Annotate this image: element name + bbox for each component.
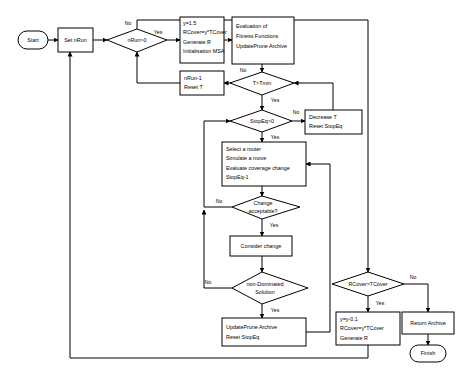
- node-t-gt-tmin[interactable]: T>Tmin: [230, 72, 294, 95]
- edge-label-change-yes: Yes: [270, 222, 279, 228]
- eval-box-line-2: Fitness Functions: [236, 33, 279, 39]
- non-dominated-shape: [232, 272, 308, 304]
- decrease-t-line-2: Reset StopEq: [309, 123, 342, 129]
- node-decrease-t[interactable]: Decrease T Reset StopEq: [305, 110, 362, 134]
- node-rcover-gt-tcover[interactable]: RCover>TCover: [332, 272, 404, 296]
- select-router-line-2: Simulate a move: [226, 155, 266, 161]
- init-box-line-1: y=1.5: [183, 20, 196, 26]
- edge-decrease-t-to-tmin: [294, 83, 333, 110]
- select-router-line-4: StopEq-1: [226, 174, 248, 180]
- node-consider-change[interactable]: Consider change: [230, 236, 292, 256]
- edge-label-nrun-yes: Yes: [154, 29, 163, 35]
- t-gt-tmin-label: T>Tmin: [253, 80, 271, 86]
- node-decrease-y[interactable]: y=y-0.1 RCover=y*TCover Generate R: [336, 312, 400, 345]
- init-box-line-4: Initialisation MSA: [183, 48, 225, 54]
- edge-label-stopeq-no: No: [293, 109, 300, 115]
- edge-decrease-y-to-set-nrun: [70, 52, 368, 358]
- edge-label-rcover-yes: Yes: [376, 300, 385, 306]
- decrease-y-line-1: y=y-0.1: [340, 316, 358, 322]
- decrease-y-line-2: RCover=y*TCover: [340, 325, 384, 331]
- rcover-gt-tcover-label: RCover>TCover: [348, 281, 387, 287]
- consider-change-label: Consider change: [241, 243, 282, 249]
- decrease-y-line-3: Generate R: [340, 335, 368, 341]
- change-acceptable-line-2: acceptable?: [248, 208, 277, 214]
- edge-nrun-dec-to-nrun-gt-0: [137, 52, 180, 83]
- node-nrun-dec[interactable]: nRun-1 Reset T: [180, 71, 224, 95]
- edge-nondominated-no-to-rail: [204, 210, 232, 288]
- node-init-box[interactable]: y=1.5 RCover=y*TCover Generate R Initial…: [180, 17, 227, 63]
- edge-label-tmin-yes: Yes: [271, 97, 280, 103]
- non-dominated-line-1: non-Dominated: [247, 281, 284, 287]
- start-label: Start: [27, 37, 39, 43]
- node-update-prune[interactable]: UpdatePrune Archive Reset StopEq: [222, 318, 306, 346]
- node-non-dominated[interactable]: non-Dominated Solution: [232, 272, 308, 304]
- node-set-nrun[interactable]: Set nRun: [58, 28, 93, 52]
- node-select-router[interactable]: Select a router Simulate a move Evaluate…: [222, 142, 306, 186]
- flowchart-svg: long top rail to right, down to RCover>T…: [0, 0, 475, 383]
- edge-label-rcover-no: No: [410, 274, 417, 280]
- eval-box-line-1: Evaluation of: [236, 23, 268, 29]
- init-box-line-3: Generate R: [183, 39, 211, 45]
- node-start[interactable]: Start: [18, 31, 48, 49]
- edge-label-tmin-no: No: [240, 67, 247, 73]
- update-prune-shape: [222, 318, 306, 346]
- node-return-archive[interactable]: Return Archive: [402, 312, 454, 334]
- node-stopeq-gt-0[interactable]: StopEq>0: [230, 110, 292, 132]
- node-eval-box[interactable]: Evaluation of Fitness Functions UpdatePr…: [232, 17, 294, 64]
- finish-label: Finish: [421, 350, 435, 356]
- node-change-acceptable[interactable]: Change acceptable?: [232, 196, 300, 219]
- init-box-line-2: RCover=y*TCover: [183, 29, 227, 35]
- nrun-dec-line-2: Reset T: [184, 84, 203, 90]
- change-acceptable-line-1: Change: [254, 200, 273, 206]
- set-nrun-label: Set nRun: [64, 37, 86, 43]
- stopeq-gt-0-label: StopEq>0: [250, 118, 274, 124]
- update-prune-line-1: UpdatePrune Archive: [226, 324, 277, 330]
- edge-updateprune-to-select-router: [306, 164, 330, 332]
- select-router-line-1: Select a router: [226, 146, 261, 152]
- nrun-dec-line-1: nRun-1: [184, 75, 202, 81]
- edge-label-change-no: No: [216, 198, 223, 204]
- update-prune-line-2: Reset StopEq: [226, 334, 259, 340]
- node-finish[interactable]: Finish: [410, 345, 446, 362]
- edge-rcover-no-to-return-archive: [404, 284, 428, 312]
- decrease-t-line-1: Decrease T: [309, 114, 337, 120]
- edge-label-stopeq-yes: Yes: [271, 134, 280, 140]
- eval-box-line-3: UpdatePrune Archive: [236, 43, 287, 49]
- edge-label-nrun-no: No: [125, 20, 132, 26]
- edge-label-nondominated-no: No: [205, 279, 212, 285]
- select-router-line-3: Evaluate coverage change: [226, 165, 290, 171]
- return-archive-label: Return Archive: [410, 320, 445, 326]
- flowchart-canvas: long top rail to right, down to RCover>T…: [0, 0, 475, 383]
- edge-label-nondominated-yes: Yes: [271, 307, 280, 313]
- nrun-gt-0-label: nRun>0: [127, 37, 146, 43]
- non-dominated-line-2: Solution: [255, 289, 274, 295]
